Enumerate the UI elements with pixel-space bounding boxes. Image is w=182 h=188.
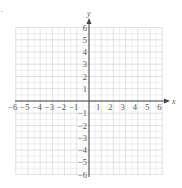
x-tick-label: −2 [57, 102, 66, 112]
corner-mark: . [1, 5, 3, 14]
x-tick-label: −3 [45, 102, 54, 112]
x-axis-arrow-icon [164, 99, 170, 104]
x-tick-label: −6 [8, 102, 17, 112]
y-tick-label: −2 [78, 121, 87, 131]
y-tick-label: 1 [83, 84, 87, 94]
x-tick-label: 3 [121, 102, 125, 112]
x-tick-label: 6 [157, 102, 161, 112]
x-tick-label: 1 [96, 102, 100, 112]
x-tick-label: −5 [20, 102, 29, 112]
y-axis-label: y [86, 9, 91, 18]
y-tick-label: 6 [83, 23, 87, 33]
x-tick-label: 2 [108, 102, 112, 112]
x-tick-label: 4 [133, 102, 138, 112]
coordinate-plane: −6−5−4−3−2−1123456654321−1−2−3−4−5−6 x y… [0, 0, 182, 188]
axes [15, 18, 170, 177]
y-axis-arrow-icon [87, 18, 92, 24]
x-axis-label: x [171, 97, 176, 106]
y-tick-label: −4 [78, 145, 88, 155]
y-tick-label: −1 [78, 108, 87, 118]
y-tick-label: −3 [78, 133, 87, 143]
x-tick-label: −1 [69, 102, 78, 112]
y-tick-label: 5 [83, 35, 87, 45]
y-tick-label: 3 [83, 59, 87, 69]
y-tick-label: −6 [78, 170, 87, 180]
y-tick-label: 2 [83, 72, 87, 82]
x-tick-label: 5 [145, 102, 149, 112]
y-tick-label: −5 [78, 157, 87, 167]
x-tick-label: −4 [33, 102, 43, 112]
